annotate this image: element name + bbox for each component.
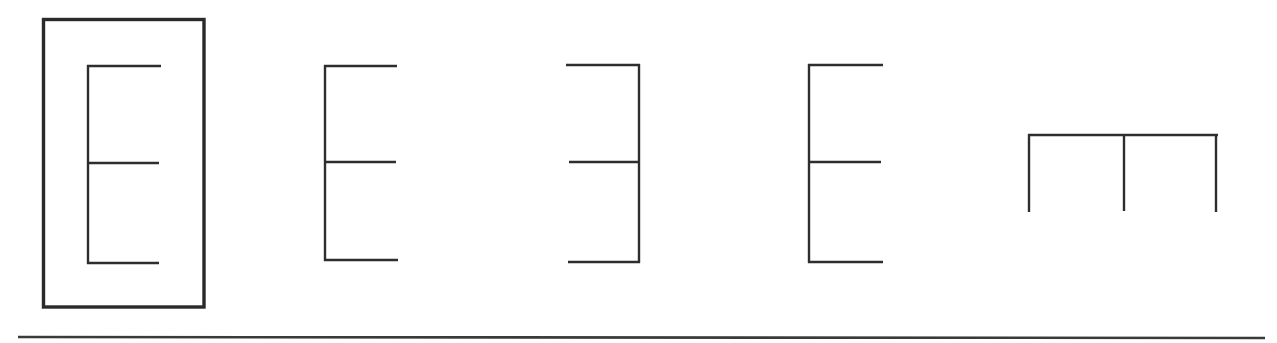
option-1-figure[interactable] — [324, 65, 398, 261]
option-4-rotated-e-shape-icon — [1028, 134, 1218, 212]
option-3-e-shape-icon — [808, 64, 883, 263]
option-3-figure[interactable] — [808, 64, 883, 263]
baseline-divider — [18, 337, 1265, 338]
target-e-shape-icon — [87, 65, 161, 264]
option-1-e-shape-icon — [324, 65, 398, 261]
diagram-canvas — [0, 0, 1277, 343]
option-4-figure[interactable] — [1028, 134, 1218, 212]
option-2-figure[interactable] — [566, 64, 640, 263]
target-figure[interactable] — [44, 20, 205, 308]
option-2-mirrored-e-shape-icon — [566, 64, 640, 263]
